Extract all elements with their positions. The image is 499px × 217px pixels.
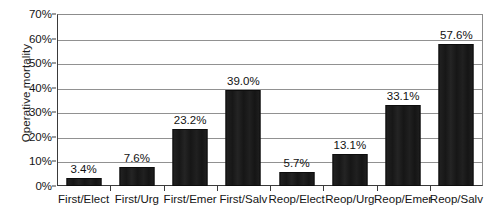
x-axis-tick-mark (430, 186, 431, 191)
x-axis-tick-label: First/Salv (219, 193, 267, 205)
bar[interactable] (119, 167, 154, 186)
bar-chart: Operative mortality 0%10%20%30%40%50%60%… (0, 0, 499, 217)
bar-group: 57.6% (430, 14, 483, 186)
y-axis-tick-mark (52, 136, 56, 137)
x-axis-tick-mark (323, 186, 324, 191)
bar-value-label: 13.1% (334, 139, 367, 151)
bar[interactable] (332, 154, 367, 186)
x-axis-tick-label: Reop/Emer (374, 193, 432, 205)
bar-group: 33.1% (377, 14, 430, 186)
bar-value-label: 33.1% (387, 90, 420, 102)
x-axis-tick-label: First/Urg (115, 193, 159, 205)
bar[interactable] (439, 44, 474, 186)
x-axis-tick-labels: First/ElectFirst/UrgFirst/EmerFirst/Salv… (57, 193, 483, 213)
bar-value-label: 23.2% (174, 114, 207, 126)
bar[interactable] (279, 172, 314, 186)
x-axis-tick-mark (110, 186, 111, 191)
bars-layer: 3.4%7.6%23.2%39.0%5.7%13.1%33.1%57.6% (57, 14, 483, 186)
x-axis-tick-mark (270, 186, 271, 191)
bar-group: 39.0% (217, 14, 270, 186)
bar-group: 5.7% (270, 14, 323, 186)
x-axis-tick-label: First/Emer (164, 193, 217, 205)
bar[interactable] (226, 90, 261, 186)
x-axis-tick-mark (164, 186, 165, 191)
y-axis-tick-mark (52, 38, 56, 39)
x-axis-tick-label: Reop/Urg (325, 193, 374, 205)
y-axis-tick-mark (52, 112, 56, 113)
y-axis-tick-mark (52, 87, 56, 88)
bar[interactable] (66, 178, 101, 186)
y-axis-tick-mark (52, 63, 56, 64)
y-axis-tick-marks (0, 14, 57, 186)
y-axis-tick-mark (52, 186, 56, 187)
bar[interactable] (173, 129, 208, 186)
x-axis-tick-mark (217, 186, 218, 191)
bar-group: 3.4% (57, 14, 110, 186)
bar[interactable] (386, 105, 421, 186)
bar-value-label: 57.6% (440, 29, 473, 41)
bar-group: 13.1% (323, 14, 376, 186)
x-axis-tick-marks (57, 186, 483, 192)
y-axis-tick-mark (52, 161, 56, 162)
x-axis-tick-label: Reop/Elect (268, 193, 324, 205)
bar-value-label: 39.0% (227, 75, 260, 87)
x-axis-tick-label: Reop/Salv (430, 193, 483, 205)
x-axis-tick-label: First/Elect (58, 193, 109, 205)
y-axis-tick-mark (52, 14, 56, 15)
bar-value-label: 3.4% (71, 163, 97, 175)
bar-group: 23.2% (164, 14, 217, 186)
x-axis-tick-mark (377, 186, 378, 191)
bar-value-label: 5.7% (284, 157, 310, 169)
bar-value-label: 7.6% (124, 152, 150, 164)
bar-group: 7.6% (110, 14, 163, 186)
